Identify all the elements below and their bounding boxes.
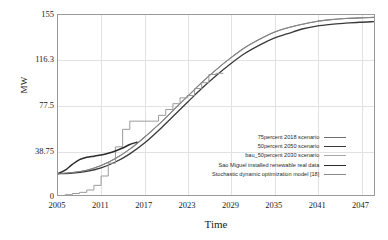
legend-label: 50percent 2050 scenario	[258, 143, 320, 149]
legend-item: 50percent 2050 scenario	[212, 142, 346, 150]
y-tick-label: 116.3	[18, 55, 54, 64]
legend-item: Stochastic dynamic optimization model [1…	[212, 170, 346, 178]
plot-area: 75percent 2018 scenario50percent 2050 sc…	[57, 14, 375, 196]
x-tick-label: 2047	[341, 200, 381, 210]
x-tick-label: 2005	[37, 200, 77, 210]
x-tick-label: 2041	[297, 200, 337, 210]
legend-label: 75percent 2018 scenario	[258, 134, 320, 140]
x-tick-label: 2035	[254, 200, 294, 210]
legend-label: Stochastic dynamic optimization model [1…	[212, 171, 319, 177]
chart-figure: MW 038.7577.5116.3155 75percent 2018 sce…	[0, 0, 388, 240]
legend-line-swatch	[324, 152, 346, 158]
legend-line-swatch	[324, 162, 346, 168]
x-tick-label: 2029	[210, 200, 250, 210]
x-tick-label: 2011	[80, 200, 120, 210]
legend-line-swatch	[324, 134, 346, 140]
legend-line-swatch	[324, 171, 346, 177]
y-tick-label: 155	[18, 10, 54, 19]
legend-label: bau_50percent 2030 scenario	[245, 152, 319, 158]
legend-label: Sao Miguel installed renewable real data	[219, 162, 320, 168]
y-tick-label: 77.5	[18, 101, 54, 110]
x-tick-label: 2023	[167, 200, 207, 210]
legend-item: 75percent 2018 scenario	[212, 133, 346, 141]
legend-line-swatch	[324, 143, 346, 149]
x-tick-label: 2017	[124, 200, 164, 210]
x-axis-tick-labels: 20052011201720232029203520412047	[0, 200, 388, 214]
legend-item: Sao Miguel installed renewable real data	[212, 161, 346, 169]
x-axis-title: Time	[57, 218, 375, 230]
legend-item: bau_50percent 2030 scenario	[212, 151, 346, 159]
chart-legend: 75percent 2018 scenario50percent 2050 sc…	[212, 133, 346, 178]
y-tick-label: 38.75	[18, 147, 54, 156]
